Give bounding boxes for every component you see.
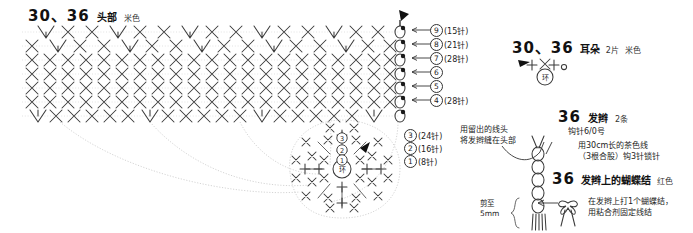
row-count-4: (28针) (444, 97, 468, 106)
start-arrow-icon (399, 10, 409, 26)
svg-text:2: 2 (340, 147, 344, 155)
trim-label-line-1: 剪至 (480, 199, 499, 209)
ear-stitch-symbols (527, 59, 567, 70)
row-pointer-arrows (412, 28, 432, 103)
row-count-9: (15针) (444, 27, 468, 36)
braid-title-qty: 2条 (615, 113, 628, 124)
row-label-9: 9(15针) (430, 24, 468, 38)
ear-start-arrow-icon (518, 60, 530, 67)
row-count-2: (16针) (418, 145, 442, 154)
bow-section-title: 36 发辫上的蝴蝶结 红色 (552, 170, 673, 188)
row-number-4: 4 (430, 94, 443, 107)
motif-inner-row-numbers: 3 2 1 (337, 133, 347, 165)
row-number-5: 5 (430, 80, 443, 93)
ear-title-color: 米色 (625, 44, 641, 55)
bow-knot-shape (559, 201, 578, 226)
ear-title-qty: 2片 (606, 44, 619, 55)
row-count-7: (28针) (444, 55, 468, 64)
ring-label-center: 环 (339, 166, 346, 174)
row-count-1: (8针) (418, 158, 437, 167)
bow-instruction: 在发辫上打1个蝴蝶结， 用粘合剂固定线结 (588, 196, 673, 218)
bow-title-number: 36 (552, 170, 575, 188)
bow-pointer-arrow (538, 200, 558, 206)
row-label-4: 4(28针) (430, 94, 468, 108)
braid-title-part: 发辫 (588, 110, 608, 125)
braid-material-note: 用30cm长的茶色线 （3根合股）钩3针锁针 (578, 140, 660, 162)
bow-title-part: 发辫上的蝴蝶结 (581, 172, 651, 187)
row-label-7: 7(28针) (430, 52, 468, 66)
ear-stitch-chart: 环 (516, 56, 586, 90)
row-label-8: 8(21针) (430, 38, 468, 52)
braid-hook-note: 钩针6/0号 (568, 126, 605, 137)
row-number-6: 6 (430, 66, 443, 79)
ear-title-number: 30、36 (512, 36, 574, 57)
braid-material-line-1: 用30cm长的茶色线 (578, 140, 660, 151)
trim-label: 剪至 5mm (480, 199, 499, 219)
trim-bracket (508, 197, 522, 229)
head-row-label-list: 9(15针) 8(21针) 7(28针) 6 5 4(28针) (430, 24, 468, 108)
row-label-6: 6 (430, 66, 468, 80)
row-number-9: 9 (430, 24, 443, 37)
braid-title-number: 36 (558, 108, 581, 126)
row-number-7: 7 (430, 52, 443, 65)
svg-text:3: 3 (340, 135, 344, 143)
row-count-8: (21针) (444, 41, 468, 50)
bow-instruction-line-1: 在发辫上打1个蝴蝶结， (588, 196, 673, 207)
ear-ring-label: 环 (542, 74, 549, 82)
braid-top-threads (532, 136, 544, 148)
bow-drawing (528, 190, 592, 232)
bow-instruction-line-2: 用粘合剂固定线结 (588, 207, 673, 218)
row-number-8: 8 (430, 38, 443, 51)
braid-material-line-2: （3根合股）钩3针锁针 (578, 151, 660, 162)
row-label-5: 5 (430, 80, 468, 94)
bow-title-color: 红色 (657, 175, 673, 186)
braid-attach-line-1: 用留出的线头 (460, 124, 516, 135)
row-count-3: (24针) (418, 132, 442, 141)
braid-section-title: 36 发辫 2条 (558, 108, 628, 126)
ear-section-title: 30、36 耳朵 2片 米色 (512, 36, 641, 57)
head-center-motif: 环 (276, 112, 411, 227)
motif-start-arrow-icon (360, 142, 370, 153)
trim-label-line-2: 5mm (480, 209, 499, 219)
ear-title-part: 耳朵 (580, 41, 600, 56)
svg-text:1: 1 (340, 157, 344, 165)
